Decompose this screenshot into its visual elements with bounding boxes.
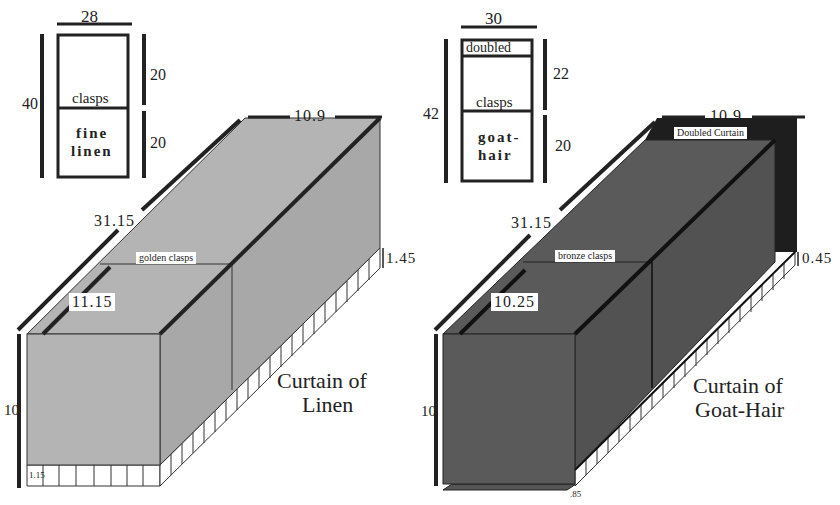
linen-plan-clasps-label: clasps: [72, 91, 109, 106]
linen-caption-2: Linen: [302, 394, 353, 416]
diagram-canvas: [0, 0, 840, 505]
goathair-clasps-label: bronze clasps: [555, 250, 615, 262]
goathair-top-width: 10.9: [710, 108, 742, 124]
goathair-plan-doubled-label: doubled: [466, 41, 511, 55]
goathair-doubled-label: Doubled Curtain: [674, 127, 747, 139]
linen-front-depth: 11.15: [69, 293, 115, 311]
goathair-back-overhang: 0.45: [802, 251, 832, 266]
linen-height: 10: [4, 403, 19, 418]
goathair-caption-1: Curtain of: [693, 375, 783, 397]
linen-plan-material-1: fine: [76, 126, 108, 141]
linen-plan-width: 28: [81, 8, 98, 25]
goathair-plan-material-1: goat-: [478, 130, 521, 145]
goathair-plan-clasps-label: clasps: [476, 95, 513, 110]
linen-clasps-label: golden clasps: [136, 252, 196, 264]
goathair-caption-2: Goat-Hair: [695, 399, 784, 421]
linen-plan-total-height: 40: [22, 96, 38, 112]
goathair-bottom-overhang: .85: [570, 490, 581, 499]
goathair-front-depth: 10.25: [491, 293, 538, 311]
linen-plan-material-2: linen: [71, 144, 113, 159]
goathair-plan-upper-height: 22: [553, 66, 569, 82]
linen-length: 31.15: [94, 213, 135, 229]
goathair-plan-width: 30: [485, 10, 502, 27]
linen-bottom-overhang: 1.15: [29, 471, 45, 480]
linen-caption-1: Curtain of: [277, 370, 367, 392]
goathair-plan-total-height: 42: [423, 106, 439, 122]
goathair-length: 31.15: [511, 215, 552, 231]
goathair-plan-lower-height: 20: [555, 138, 571, 154]
linen-back-overhang: 1.45: [386, 251, 416, 266]
linen-plan-lower-height: 20: [150, 135, 166, 151]
goathair-plan-material-2: hair: [478, 148, 513, 163]
goathair-height: 10: [421, 404, 436, 419]
linen-top-width: 10.9: [294, 108, 326, 124]
linen-plan-upper-height: 20: [150, 67, 166, 83]
